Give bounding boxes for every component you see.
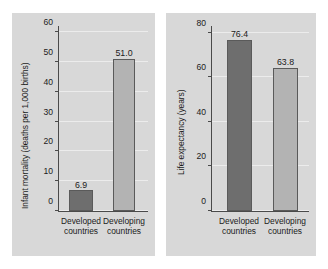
bar-developed-life-expectancy	[227, 40, 252, 211]
x-axis-line-right	[211, 211, 309, 212]
plot-area-life-expectancy: 0 20 40 60 80 76.4 63.8	[211, 26, 309, 212]
y-tick-left-20	[55, 150, 58, 151]
bar-value-developed-infant-mortality: 6.9	[75, 180, 87, 190]
y-tick-label-left-10: 10	[43, 166, 53, 176]
y-tick-label-right-40: 40	[196, 107, 206, 117]
x-axis-line-left	[58, 211, 148, 212]
y-axis-title-right: Life expectancy (years)	[176, 90, 186, 175]
y-tick-left-30	[55, 121, 58, 122]
y-tick-right-20	[208, 165, 211, 166]
bar-developing-life-expectancy	[273, 68, 298, 211]
figure-two-bar-charts: Infant mortality (deaths per 1,000 birth…	[0, 0, 328, 269]
y-axis-line-left	[58, 26, 59, 212]
x-label-developed-right: Developed countries	[219, 216, 259, 236]
bar-developing-infant-mortality	[113, 59, 135, 211]
bar-developed-infant-mortality	[69, 190, 93, 211]
y-tick-right-80	[208, 32, 211, 33]
y-tick-label-left-30: 30	[43, 107, 53, 117]
x-label-developing-right-line1: Developing	[264, 216, 306, 226]
x-label-developing-left-line1: Developing	[103, 216, 145, 226]
y-tick-label-left-60: 60	[43, 17, 53, 27]
y-tick-left-10	[55, 180, 58, 181]
bar-value-developing-infant-mortality: 51.0	[115, 48, 132, 58]
y-tick-left-50	[55, 61, 58, 62]
y-tick-label-left-0: 0	[48, 196, 53, 206]
y-tick-left-60	[55, 31, 58, 32]
gridline-left-60	[59, 31, 148, 32]
y-tick-right-0	[208, 210, 211, 211]
y-tick-label-right-0: 0	[201, 196, 206, 206]
y-tick-label-right-60: 60	[196, 62, 206, 72]
bar-value-developing-life-expectancy: 63.8	[277, 57, 294, 67]
gridline-right-80	[212, 32, 309, 33]
y-tick-left-0	[55, 210, 58, 211]
x-label-developing-left-line2: countries	[103, 226, 145, 236]
x-label-developed-right-line1: Developed	[219, 216, 259, 226]
y-tick-right-60	[208, 76, 211, 77]
y-axis-line-right	[211, 26, 212, 212]
y-tick-label-left-40: 40	[43, 77, 53, 87]
x-label-developing-right-line2: countries	[264, 226, 306, 236]
y-tick-label-left-50: 50	[43, 47, 53, 57]
x-label-developed-left-line1: Developed	[61, 216, 101, 226]
y-axis-title-left: Infant mortality (deaths per 1,000 birth…	[20, 63, 30, 209]
y-tick-left-40	[55, 91, 58, 92]
x-label-developed-left-line2: countries	[61, 226, 101, 236]
x-label-developing-right: Developing countries	[264, 216, 306, 236]
y-tick-label-right-80: 80	[196, 18, 206, 28]
y-tick-right-40	[208, 121, 211, 122]
x-label-developed-right-line2: countries	[219, 226, 259, 236]
y-tick-label-right-20: 20	[196, 151, 206, 161]
y-tick-label-left-20: 20	[43, 136, 53, 146]
x-label-developed-left: Developed countries	[61, 216, 101, 236]
bar-value-developed-life-expectancy: 76.4	[231, 29, 248, 39]
plot-area-infant-mortality: 0 10 20 30 40 50 60 6.9 51.0	[58, 26, 148, 212]
x-label-developing-left: Developing countries	[103, 216, 145, 236]
